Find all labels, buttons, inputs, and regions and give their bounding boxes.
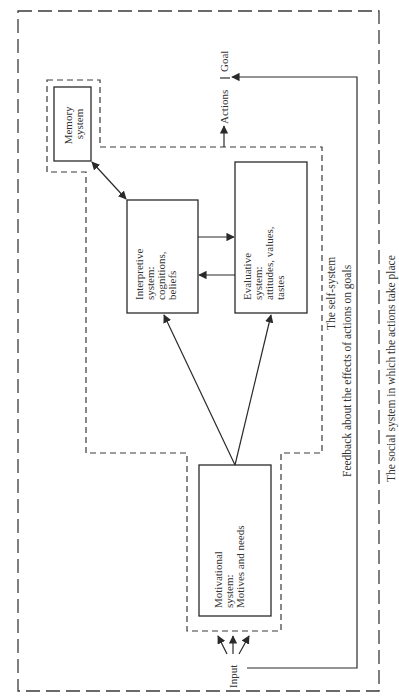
interpretive-system-box: Interpretive system: cognitions, beliefs xyxy=(127,200,198,313)
input-label: Input xyxy=(227,665,239,688)
self-system-label: The self-system xyxy=(325,257,338,330)
motivational-to-evaluative-arrow xyxy=(235,315,271,465)
input-arrow-right xyxy=(239,636,249,654)
feedback-label: Feedback about the effects of actions on… xyxy=(341,264,354,477)
evaluative-system-box: Evaluative system: attitudes, values, ta… xyxy=(235,162,307,313)
evaluative-line-4: tastes xyxy=(274,276,286,300)
goal-label: Goal xyxy=(218,51,230,72)
social-system-label: The social system in which the actions t… xyxy=(385,255,398,482)
motivational-system-box: Motivational system: Motives and needs xyxy=(199,465,271,616)
actions-label: Actions xyxy=(218,90,230,124)
motivational-line-3: Motives and needs xyxy=(234,526,246,608)
memory-line-2: system xyxy=(73,108,85,139)
memory-interpretive-arrow xyxy=(92,162,126,199)
memory-system-box: Memory system xyxy=(54,87,91,161)
motivational-to-interpretive-arrow xyxy=(164,315,235,465)
interpretive-line-4: beliefs xyxy=(166,271,178,300)
svg-text:Memory system: Memory system xyxy=(62,104,85,145)
input-arrow-left xyxy=(218,636,227,654)
self-system-diagram: Memory system Interpretive system: cogni… xyxy=(0,0,399,700)
